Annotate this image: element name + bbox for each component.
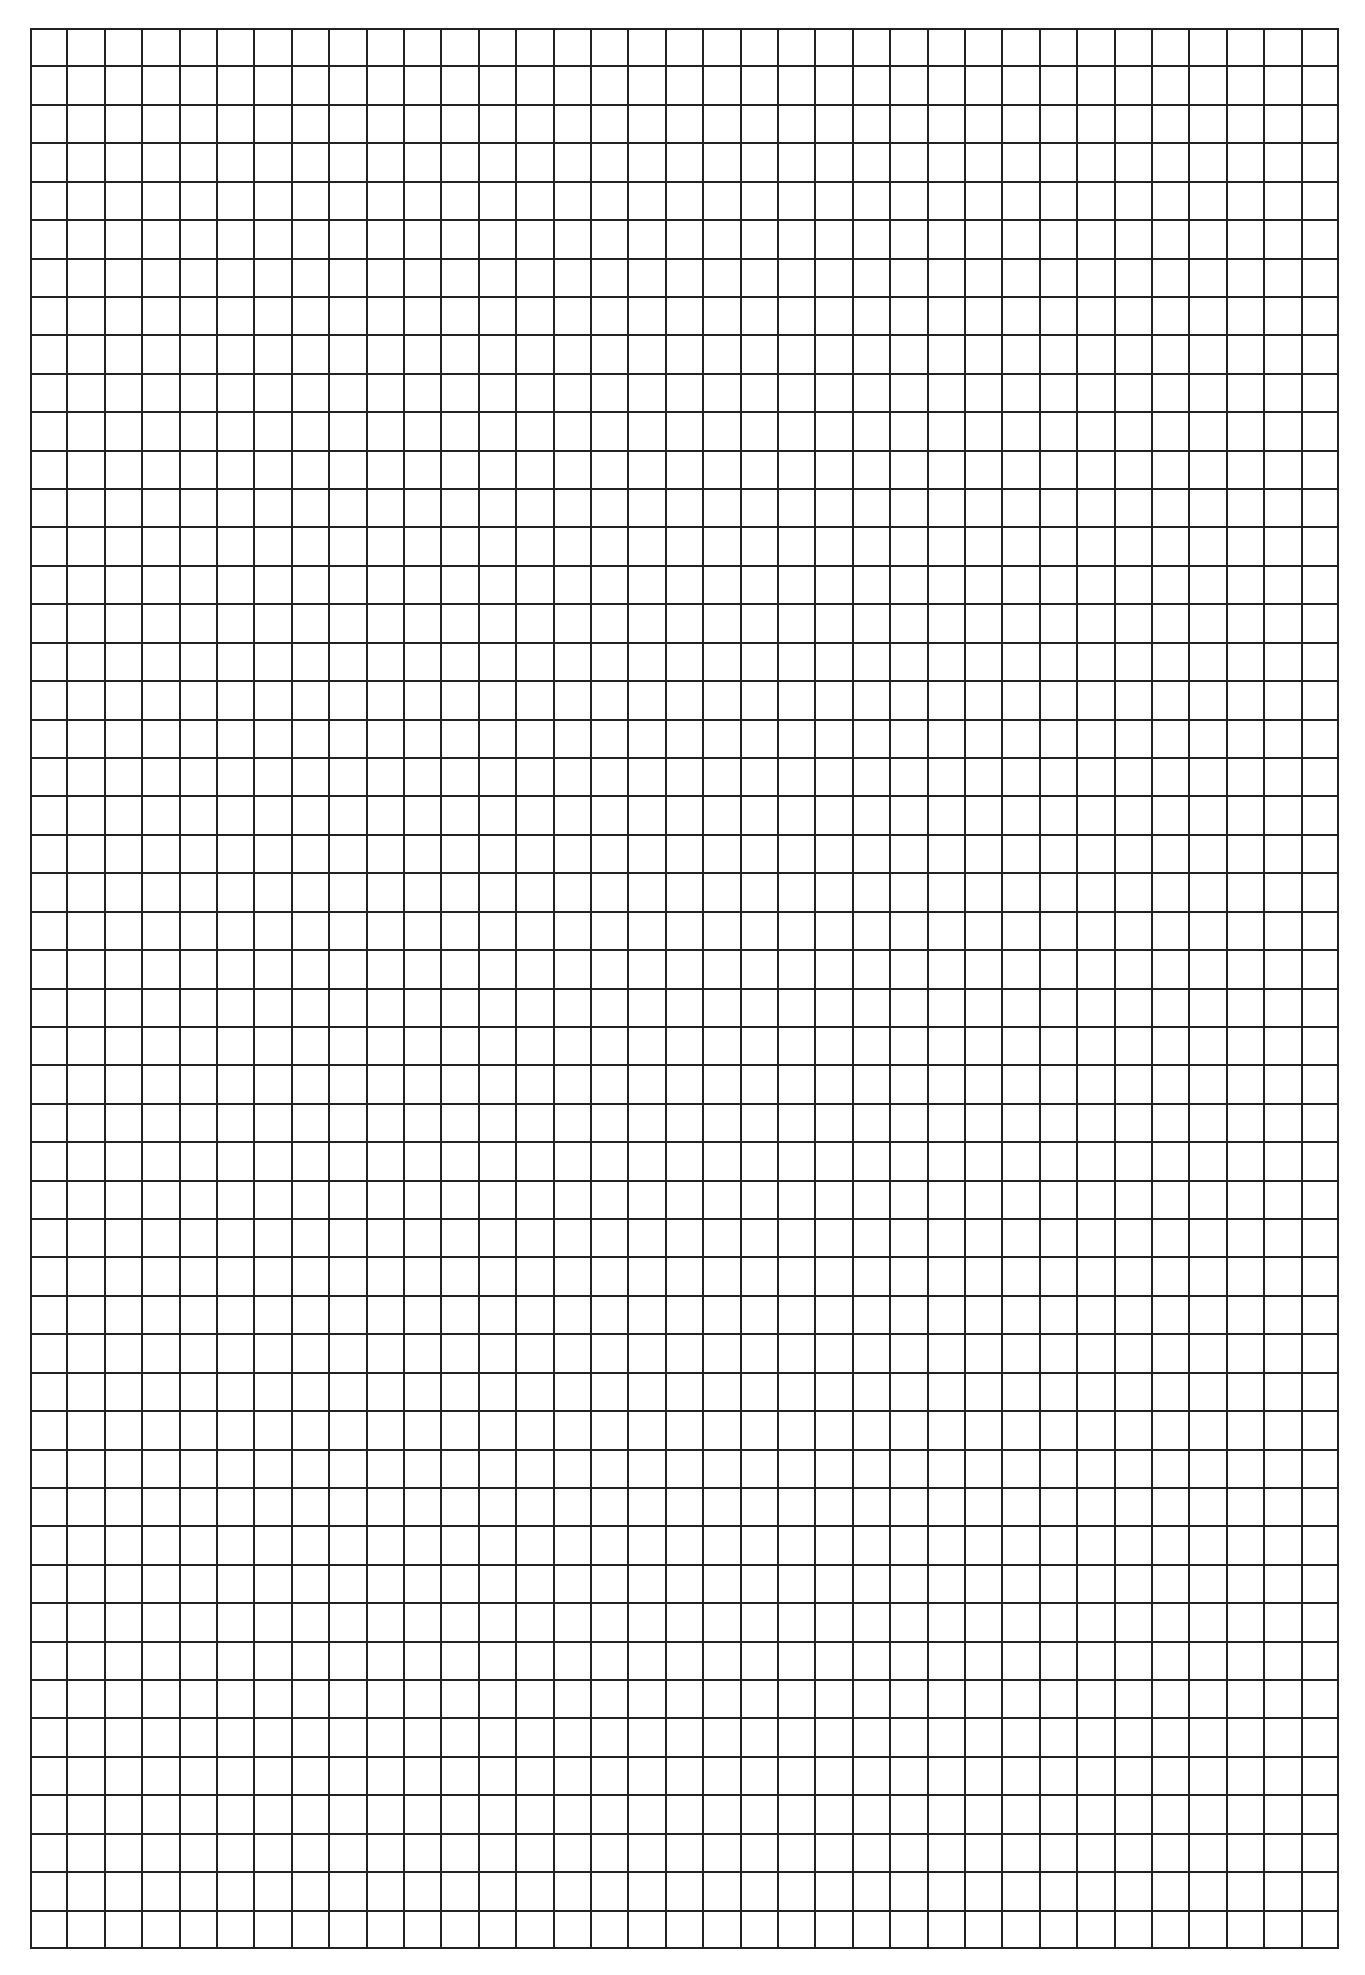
grid-lines xyxy=(30,28,1339,1949)
graph-paper-grid xyxy=(30,28,1339,1949)
